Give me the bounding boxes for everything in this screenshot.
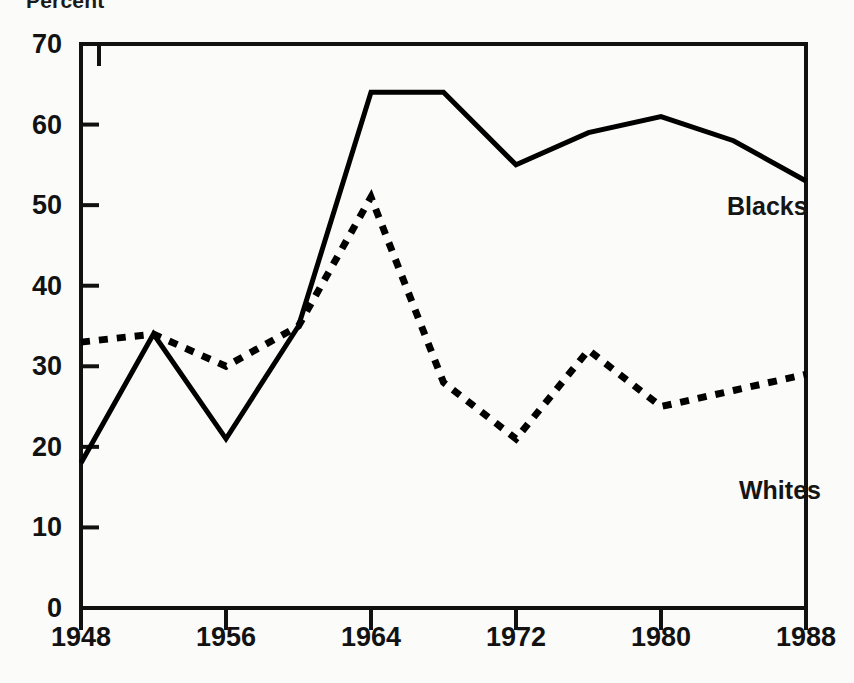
x-tick-label: 1980 <box>631 622 691 653</box>
x-tick-label: 1988 <box>776 622 836 653</box>
y-tick-label: 40 <box>6 270 62 301</box>
y-tick-label: 20 <box>6 431 62 462</box>
y-axis-label: Percent <box>26 0 104 13</box>
data-series-group <box>81 92 806 463</box>
y-axis-tick-labels: 010203040506070 <box>0 44 62 608</box>
y-tick-label: 10 <box>6 512 62 543</box>
y-tick-label: 30 <box>6 351 62 382</box>
y-axis-ticks <box>81 44 99 608</box>
series-label-whites: Whites <box>739 476 821 505</box>
series-line-blacks <box>81 92 806 463</box>
x-tick-label: 1948 <box>51 622 111 653</box>
y-tick-label: 60 <box>6 109 62 140</box>
y-tick-label: 70 <box>6 29 62 60</box>
x-tick-label: 1972 <box>486 622 546 653</box>
plot-area: Blacks Whites <box>79 44 808 608</box>
series-label-blacks: Blacks <box>727 192 808 221</box>
chart-figure: Percent 010203040506070 Blacks Whites 19… <box>0 0 854 683</box>
y-tick-label: 50 <box>6 190 62 221</box>
x-tick-label: 1964 <box>341 622 401 653</box>
series-line-whites <box>81 197 806 439</box>
x-axis-tick-labels: 194819561964197219801988 <box>0 622 854 662</box>
y-tick-label: 0 <box>6 593 62 624</box>
chart-canvas <box>79 44 808 608</box>
x-tick-label: 1956 <box>196 622 256 653</box>
